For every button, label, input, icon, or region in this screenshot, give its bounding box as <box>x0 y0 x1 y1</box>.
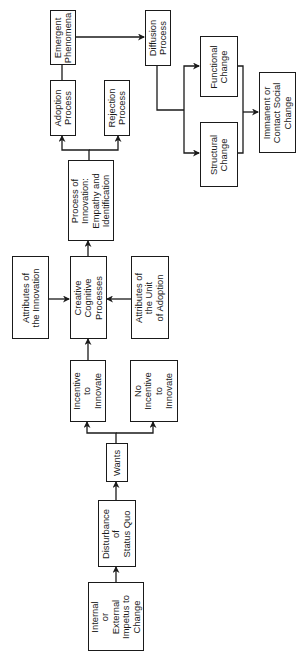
node-label: Process of Innovation: Empathy and Ident… <box>70 173 112 228</box>
node-label: Structural Change <box>209 134 230 174</box>
edge-wants-no-incentive <box>116 422 153 433</box>
node-emergent: Emergent Phenomena <box>50 10 76 65</box>
node-label: Diffusion Process <box>148 20 169 56</box>
node-disturbance: Disturbance of Status Quo <box>98 500 136 567</box>
node-incentive: Incentive to Innovate <box>70 360 106 422</box>
node-label: Disturbance of Status Quo <box>101 508 132 558</box>
node-label: Rejection Process <box>107 88 128 127</box>
node-label: Emergent Phenomena <box>53 12 74 63</box>
node-label: Attributes of the Unit of Adoption <box>134 272 165 322</box>
node-diffusion: Diffusion Process <box>145 10 171 66</box>
node-impetus: Internal or External Impetus to Change <box>88 582 144 651</box>
edge-diffusion-split <box>157 65 184 110</box>
node-label: Attributes of the Innovation <box>20 268 41 327</box>
node-wants: Wants <box>106 443 128 482</box>
node-rejection: Rejection Process <box>104 80 130 136</box>
edge-wants-split <box>87 422 116 443</box>
edge-process-rejection <box>89 136 118 150</box>
edge-diffusion-structural <box>184 110 199 153</box>
node-label: Internal or External Impetus to Change <box>90 595 142 639</box>
node-label: Immanent or Contact Social Change <box>262 82 293 142</box>
node-functional: Functional Change <box>200 36 238 97</box>
node-structural: Structural Change <box>200 122 238 187</box>
node-label: Functional Change <box>209 45 230 88</box>
node-label: Wants <box>112 449 122 475</box>
node-label: Incentive to Innovate <box>72 372 103 410</box>
node-no-incentive: No Incentive to Innovate <box>130 360 178 422</box>
node-adoption: Adoption Process <box>50 80 76 136</box>
node-label: Adoption Process <box>53 89 74 126</box>
node-immanent: Immanent or Contact Social Change <box>259 72 296 153</box>
edge-process-adoption <box>62 136 89 160</box>
node-attributes-innovation: Attributes of the Innovation <box>12 256 49 339</box>
edge-diffusion-functional <box>184 66 199 110</box>
node-label: Creative Cognitive Processes <box>73 276 104 320</box>
node-attributes-unit: Attributes of the Unit of Adoption <box>131 256 169 339</box>
node-label: No Incentive to Innovate <box>133 372 175 410</box>
node-process-innovation: Process of Innovation: Empathy and Ident… <box>68 160 114 241</box>
node-creative-cognitive: Creative Cognitive Processes <box>70 256 107 339</box>
